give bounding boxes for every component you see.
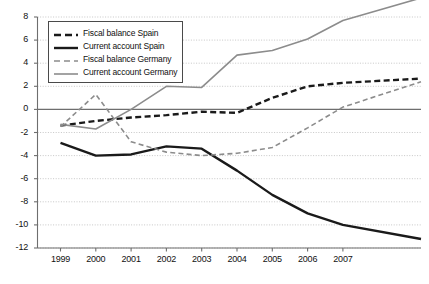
chart-legend: Fiscal balance SpainCurrent account Spai… [48, 21, 183, 83]
x-axis-tick-label: 2006 [288, 254, 328, 264]
x-axis-tick-label: 2000 [76, 254, 116, 264]
x-axis-tick-label: 1999 [41, 254, 81, 264]
y-axis-tick-label: -6 [2, 173, 28, 183]
y-axis-tick-label: 8 [2, 11, 28, 21]
x-axis-tick-label: 2005 [252, 254, 292, 264]
x-axis-tick-label: 2004 [217, 254, 257, 264]
y-axis-tick-label: -10 [2, 219, 28, 229]
legend-line-swatch [53, 66, 79, 78]
line-chart: 86420-2-4-6-8-10-12 19992000200120022003… [0, 0, 429, 284]
legend-line-swatch [53, 27, 79, 39]
legend-item: Fiscal balance Spain [53, 26, 177, 39]
legend-item: Current account Germany [53, 65, 177, 78]
x-axis-tick-label: 2003 [182, 254, 222, 264]
y-axis-tick-label: 6 [2, 34, 28, 44]
legend-line-swatch [53, 53, 79, 65]
y-axis-tick-label: -12 [2, 242, 28, 252]
y-axis-tick-label: 0 [2, 103, 28, 113]
legend-item-label: Current account Germany [83, 67, 177, 77]
legend-line-swatch [53, 40, 79, 52]
legend-item-label: Fiscal balance Spain [83, 28, 158, 38]
legend-item-label: Current account Spain [83, 41, 164, 51]
y-axis-tick-label: -8 [2, 196, 28, 206]
legend-item: Fiscal balance Germany [53, 52, 177, 65]
y-axis-tick-label: 4 [2, 57, 28, 67]
y-axis-tick-label: -2 [2, 127, 28, 137]
y-axis-tick-label: -4 [2, 150, 28, 160]
legend-item-label: Fiscal balance Germany [83, 54, 171, 64]
y-axis-tick-label: 2 [2, 80, 28, 90]
x-axis-tick-label: 2007 [323, 254, 363, 264]
x-axis-tick-label: 2001 [111, 254, 151, 264]
legend-item: Current account Spain [53, 39, 177, 52]
x-axis-tick-label: 2002 [146, 254, 186, 264]
